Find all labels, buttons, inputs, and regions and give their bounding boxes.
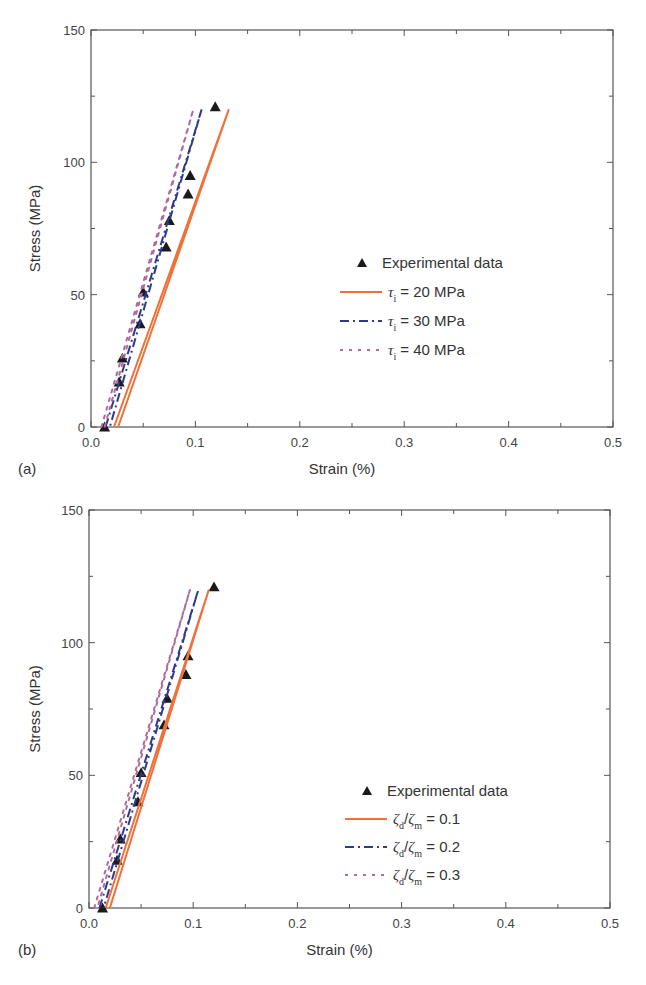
x-axis-title: Strain (%) — [309, 460, 376, 477]
y-tick-label: 0 — [76, 901, 83, 916]
y-axis-title: Stress (MPa) — [26, 185, 43, 273]
x-tick-label: 0.5 — [601, 916, 619, 931]
x-tick-label: 0.1 — [186, 435, 204, 450]
y-tick-label: 100 — [63, 155, 85, 170]
legend-label: ζd/ζm = 0.1 — [393, 810, 460, 831]
legend-label: Experimental data — [387, 782, 509, 799]
legend-label: τi = 30 MPa — [388, 312, 466, 333]
plot-frame — [89, 510, 610, 908]
x-tick-label: 0.3 — [395, 435, 413, 450]
triangle-marker — [161, 242, 172, 252]
x-tick-label: 0.1 — [184, 916, 202, 931]
x-tick-label: 0.2 — [291, 435, 309, 450]
legend: Experimental dataζd/ζm = 0.1ζd/ζm = 0.2ζ… — [345, 782, 509, 887]
figure: 0.00.10.20.30.40.5050100150Strain (%)Str… — [0, 0, 646, 985]
y-tick-label: 100 — [61, 636, 83, 651]
y-tick-label: 0 — [78, 420, 85, 435]
x-tick-label: 0.3 — [393, 916, 411, 931]
x-tick-label: 0.4 — [500, 435, 518, 450]
x-tick-label: 0.5 — [604, 435, 622, 450]
series-line — [94, 590, 190, 908]
series-line — [101, 109, 193, 427]
chart-panel-a: 0.00.10.20.30.40.5050100150Strain (%)Str… — [18, 23, 622, 477]
legend-label: τi = 40 MPa — [388, 341, 466, 362]
panel-label: (a) — [18, 460, 36, 477]
legend: Experimental dataτi = 20 MPaτi = 30 MPaτ… — [340, 254, 504, 362]
legend-label: ζd/ζm = 0.2 — [393, 838, 460, 859]
triangle-marker — [185, 170, 196, 180]
legend-label: τi = 20 MPa — [388, 283, 466, 304]
triangle-marker — [210, 101, 221, 111]
triangle-marker — [183, 189, 194, 199]
series-line — [114, 109, 229, 427]
y-axis-title: Stress (MPa) — [26, 665, 43, 753]
triangle-marker — [362, 786, 372, 795]
chart-panel-b: 0.00.10.20.30.40.5050100150Strain (%)Str… — [18, 503, 619, 958]
triangle-marker — [357, 258, 367, 267]
y-tick-label: 150 — [63, 23, 85, 38]
x-tick-label: 0.0 — [80, 916, 98, 931]
x-tick-label: 0.0 — [82, 435, 100, 450]
series-line — [106, 590, 209, 908]
y-tick-label: 50 — [69, 768, 83, 783]
legend-label: ζd/ζm = 0.3 — [393, 866, 460, 887]
panel-label: (b) — [18, 941, 36, 958]
y-tick-label: 50 — [71, 288, 85, 303]
x-tick-label: 0.2 — [288, 916, 306, 931]
x-axis-title: Strain (%) — [306, 941, 373, 958]
triangle-marker — [209, 581, 220, 591]
plot-frame — [91, 30, 613, 427]
y-tick-label: 150 — [61, 503, 83, 518]
legend-label: Experimental data — [382, 254, 504, 271]
x-tick-label: 0.4 — [497, 916, 515, 931]
